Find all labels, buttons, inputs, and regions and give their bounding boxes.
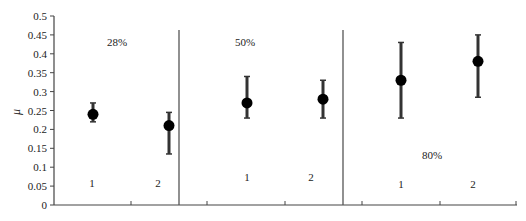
y-tick-label: 0.35 [28, 67, 48, 79]
x-category-label: 2 [470, 178, 476, 190]
y-axis-label: μ [9, 109, 23, 116]
error-bar-chart: 00.050.10.150.20.250.30.350.40.450.5 28%… [0, 0, 526, 221]
error-bar-point [164, 112, 175, 154]
y-axis: 00.050.10.150.20.250.30.350.40.450.5 [28, 10, 54, 211]
y-tick-label: 0.5 [33, 10, 47, 22]
y-tick-label: 0 [42, 199, 48, 211]
group-label: 50% [235, 36, 255, 48]
y-tick-label: 0.05 [28, 180, 48, 192]
error-bar-point [396, 42, 407, 118]
error-bar-point [473, 35, 484, 97]
x-category-label: 2 [308, 171, 314, 183]
error-bar-point [318, 80, 329, 118]
y-tick-label: 0.45 [28, 29, 48, 41]
x-category-label: 1 [244, 171, 250, 183]
x-category-label: 2 [155, 177, 161, 189]
y-tick-label: 0.15 [28, 142, 48, 154]
y-tick-label: 0.4 [33, 48, 47, 60]
y-tick-label: 0.1 [33, 161, 47, 173]
error-bar-point [88, 103, 99, 122]
y-tick-label: 0.25 [28, 105, 48, 117]
group-label: 28% [107, 36, 127, 48]
group-label: 80% [422, 149, 442, 161]
data-points [88, 35, 484, 154]
group-labels: 28%1250%1280%12 [89, 36, 476, 190]
error-bar-point [242, 76, 253, 118]
x-category-label: 1 [89, 177, 95, 189]
x-axis [54, 201, 517, 205]
group-dividers [179, 30, 343, 205]
y-tick-label: 0.3 [33, 86, 47, 98]
x-category-label: 1 [398, 178, 404, 190]
y-tick-label: 0.2 [33, 123, 47, 135]
